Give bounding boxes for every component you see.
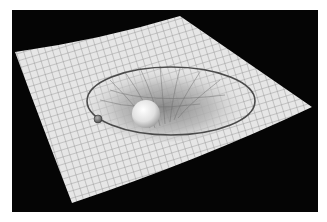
orbiting-planet (94, 115, 102, 123)
grid-sheet (0, 0, 327, 222)
massive-sphere (132, 100, 160, 128)
spacetime-illustration (0, 0, 327, 222)
